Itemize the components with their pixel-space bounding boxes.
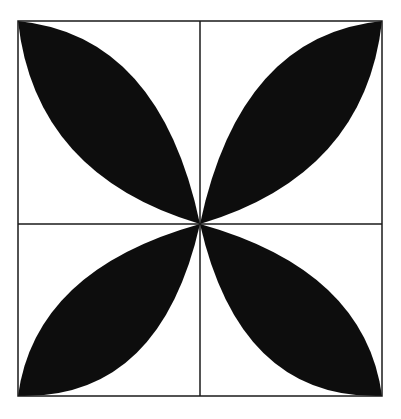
petal-bottom-right bbox=[200, 224, 382, 396]
petal-top-right bbox=[200, 21, 382, 224]
petal-top-left bbox=[18, 21, 200, 224]
four-petal-diagram bbox=[0, 0, 401, 419]
petal-bottom-left bbox=[18, 224, 200, 396]
